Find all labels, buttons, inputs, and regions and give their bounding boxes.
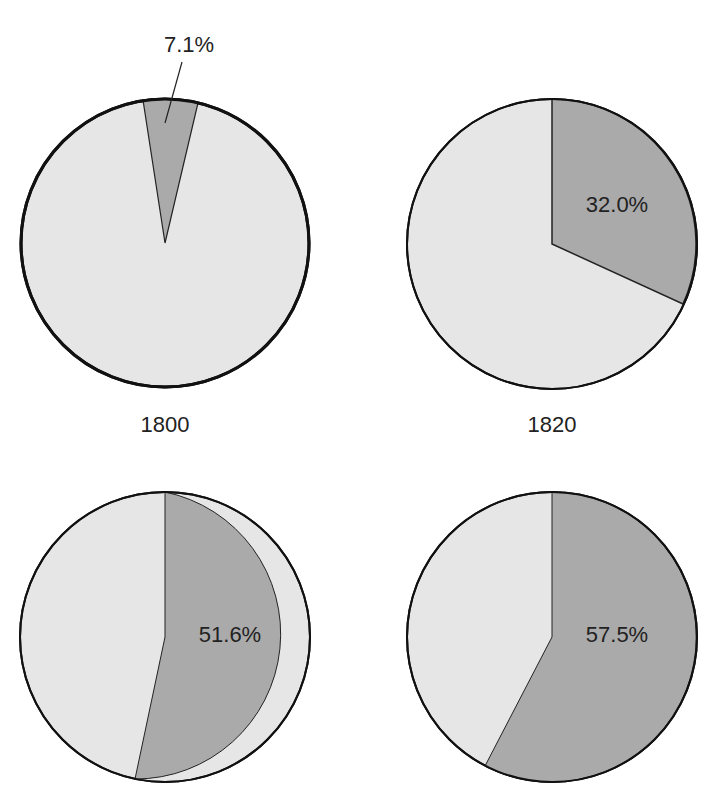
pie-4: 57.5% [407, 492, 697, 782]
pie-chart-grid: 7.1% 1800 32.0% 1820 51.6% 57.5% [0, 0, 722, 809]
pie-1820-year-label: 1820 [528, 412, 577, 437]
pie-1800: 7.1% 1800 [21, 32, 309, 437]
pie-3: 51.6% [20, 492, 310, 782]
pie-1800-value-label: 7.1% [164, 32, 214, 57]
pie-4-value-label: 57.5% [586, 622, 648, 647]
pie-3-value-label: 51.6% [199, 622, 261, 647]
pie-1800-year-label: 1800 [141, 412, 190, 437]
pie-1820-value-label: 32.0% [586, 192, 648, 217]
pie-1820: 32.0% 1820 [407, 99, 697, 437]
